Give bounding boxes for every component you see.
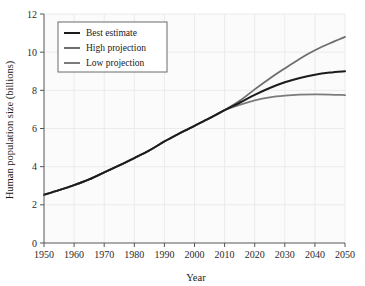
x-tick-label: 2020 bbox=[245, 249, 265, 260]
x-tick-label: 2040 bbox=[305, 249, 325, 260]
x-tick-label: 1970 bbox=[94, 249, 114, 260]
x-tick-label: 2000 bbox=[185, 249, 205, 260]
x-tick-label: 2030 bbox=[275, 249, 295, 260]
y-tick-label: 8 bbox=[32, 85, 37, 96]
y-tick-label: 4 bbox=[32, 161, 37, 172]
legend-label-best-estimate: Best estimate bbox=[86, 28, 137, 38]
x-tick-label: 1980 bbox=[124, 249, 144, 260]
y-tick-label: 6 bbox=[32, 123, 37, 134]
chart-legend: Best estimateHigh projectionLow projecti… bbox=[58, 22, 167, 72]
x-tick-label: 2010 bbox=[215, 249, 235, 260]
x-tick-label: 1950 bbox=[34, 249, 54, 260]
y-tick-label: 0 bbox=[32, 238, 37, 249]
y-tick-label: 2 bbox=[32, 199, 37, 210]
y-axis-title: Human population size (billions) bbox=[4, 60, 16, 199]
y-tick-label: 12 bbox=[27, 9, 37, 20]
x-tick-label: 1990 bbox=[154, 249, 174, 260]
x-tick-label: 2050 bbox=[335, 249, 355, 260]
population-projection-chart: 024681012 195019601970198019902000201020… bbox=[0, 0, 365, 286]
y-axis-ticks: 024681012 bbox=[27, 9, 44, 249]
x-axis-title: Year bbox=[186, 272, 206, 283]
x-tick-label: 1960 bbox=[64, 249, 84, 260]
x-axis-ticks: 1950196019701980199020002010202020302040… bbox=[34, 243, 355, 260]
y-tick-label: 10 bbox=[27, 47, 37, 58]
legend-label-high-projection: High projection bbox=[86, 43, 146, 53]
chart-canvas: 024681012 195019601970198019902000201020… bbox=[0, 0, 365, 286]
legend-label-low-projection: Low projection bbox=[86, 58, 145, 68]
